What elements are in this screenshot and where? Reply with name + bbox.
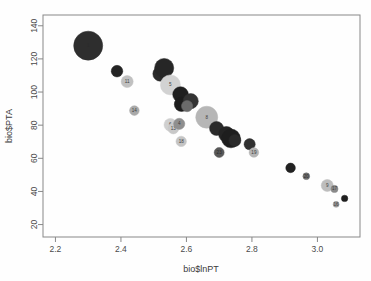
data-point: [111, 65, 123, 77]
point-label: 8: [205, 115, 208, 120]
data-point: 20: [303, 173, 310, 180]
y-tick-label: 40: [29, 186, 39, 196]
data-point: 23: [214, 148, 224, 158]
data-point: 14: [130, 106, 140, 116]
plot-canvas: 2.22.42.62.83.0 20406080100120140 111145…: [0, 0, 371, 281]
data-point: [341, 195, 347, 201]
point-label: 19: [251, 150, 257, 155]
data-point: 19: [249, 148, 259, 158]
bubble-marker: [111, 65, 123, 77]
data-point: 4: [174, 118, 185, 129]
data-point: 1: [74, 31, 103, 60]
bubble-marker: [229, 134, 241, 146]
y-tick-label: 120: [29, 52, 39, 66]
x-tick-label: 2.8: [246, 244, 258, 254]
data-point: [181, 101, 192, 112]
bubble-marker: [341, 195, 347, 201]
data-point: 11: [121, 76, 133, 88]
y-tick-label: 60: [29, 153, 39, 163]
point-label: 14: [132, 108, 138, 113]
y-axis-title: bio$PTA: [4, 109, 14, 143]
data-point: [286, 163, 296, 173]
point-label: 16: [334, 202, 340, 207]
x-tick-label: 3.0: [312, 244, 324, 254]
point-label: 11: [125, 79, 130, 84]
point-label: 17: [332, 186, 338, 191]
data-point: 18: [176, 136, 186, 146]
point-label: 9: [326, 183, 329, 188]
scatter-plot-figure: 2.22.42.62.83.0 20406080100120140 111145…: [0, 0, 371, 281]
data-point: 16: [333, 201, 339, 207]
point-label: 20: [304, 174, 310, 179]
y-tick-label: 20: [29, 220, 39, 230]
bubble-marker: [286, 163, 296, 173]
x-tick-label: 2.2: [50, 244, 62, 254]
x-tick-label: 2.6: [181, 244, 193, 254]
y-tick-label: 100: [29, 85, 39, 99]
point-label: 4: [178, 121, 181, 126]
point-label: 1: [87, 43, 90, 48]
data-point: [229, 134, 241, 146]
point-label: 18: [179, 139, 185, 144]
y-tick-label: 80: [29, 120, 39, 130]
x-axis-title: bio$lnPT: [183, 264, 219, 274]
y-tick-label: 140: [29, 18, 39, 32]
bubble-marker: [181, 101, 192, 112]
point-label: 23: [217, 150, 223, 155]
x-tick-label: 2.4: [115, 244, 127, 254]
point-label: 5: [169, 82, 172, 87]
data-point: 17: [331, 185, 338, 192]
